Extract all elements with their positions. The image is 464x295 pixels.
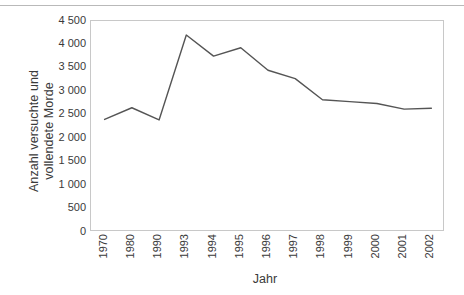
x-axis-title: Jahr [215,272,315,286]
x-axis-tick-label: 1980 [125,234,136,274]
x-axis-tick: 1996 [261,234,273,270]
x-axis-tick-label: 1997 [288,234,299,274]
y-axis-tick-label: 3 000 [38,85,86,96]
x-axis-tick-label: 2002 [424,234,435,274]
y-axis-tick-label: 1 000 [38,179,86,190]
x-axis-tick: 1999 [343,234,355,270]
x-axis-tick: 1997 [288,234,300,270]
x-axis-tick-label: 1999 [343,234,354,274]
y-axis-tick-label: 2 500 [38,108,86,119]
plot-area [90,20,444,231]
series-line-morde [105,35,432,120]
y-axis-tick-label: 1 500 [38,155,86,166]
y-axis-tick-label: 4 500 [38,15,86,26]
x-axis-tick: 2000 [370,234,382,270]
x-axis-tick-label: 2001 [397,234,408,274]
x-axis-tick: 1995 [234,234,246,270]
x-axis-tick-label: 1990 [152,234,163,274]
x-axis-tick-label: 1994 [207,234,218,274]
x-axis-tick: 1998 [315,234,327,270]
x-axis-tick-labels: 1970198019901993199419951996199719981999… [90,231,444,271]
y-axis-tick-label: 2 000 [38,132,86,143]
x-axis-tick-label: 1996 [261,234,272,274]
x-axis-tick-label: 1993 [179,234,190,274]
line-series-svg [91,21,445,232]
y-axis-tick-label: 4 000 [38,38,86,49]
x-axis-tick-label: 2000 [370,234,381,274]
x-axis-tick: 2001 [397,234,409,270]
chart-figure: Anzahl versuchte und vollendete Morde 05… [0,0,464,295]
y-axis-tick-label: 3 500 [38,61,86,72]
x-axis-tick-label: 1970 [98,234,109,274]
x-axis-tick: 1990 [152,234,164,270]
y-axis-tick-labels: 05001 0001 5002 0002 5003 0003 5004 0004… [36,0,86,295]
x-axis-tick-label: 1995 [234,234,245,274]
x-axis-tick: 1993 [179,234,191,270]
x-axis-tick: 1980 [125,234,137,270]
y-axis-tick-label: 500 [38,202,86,213]
x-axis-tick: 2002 [424,234,436,270]
x-axis-tick-label: 1998 [315,234,326,274]
x-axis-tick: 1970 [98,234,110,270]
y-axis-tick-label: 0 [38,226,86,237]
x-axis-tick: 1994 [207,234,219,270]
